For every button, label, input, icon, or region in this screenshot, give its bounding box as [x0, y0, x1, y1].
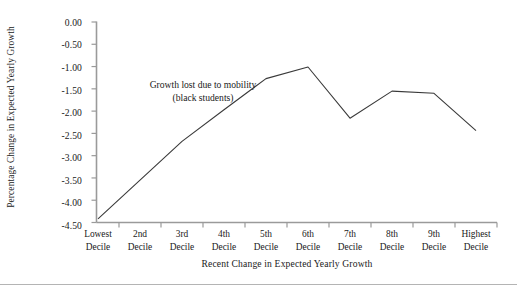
annotation-line-1: Growth lost due to mobility — [108, 78, 298, 91]
x-tick-label-9: Highest Decile — [448, 228, 504, 253]
x-tick-label-9-line2: Decile — [448, 241, 504, 254]
x-tick-label-9-line1: Highest — [448, 228, 504, 241]
chart-figure: Percentage Change in Expected Yearly Gro… — [0, 0, 517, 292]
x-axis-title: Recent Change in Expected Yearly Growth — [98, 258, 476, 269]
series-annotation: Growth lost due to mobility (black stude… — [108, 78, 298, 104]
annotation-line-2: (black students) — [108, 91, 298, 104]
